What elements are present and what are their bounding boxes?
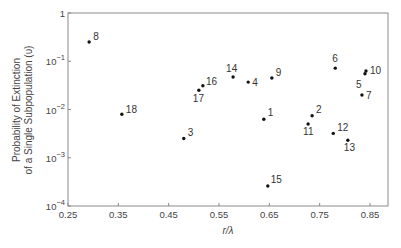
point-label: 16 (206, 76, 218, 87)
data-point: 15 (266, 174, 282, 188)
point-marker (266, 184, 269, 187)
data-point: 13 (344, 139, 356, 154)
x-tick-label: 0.25 (59, 209, 78, 220)
y-tick-label: 10−2 (46, 102, 65, 116)
point-label: 11 (303, 126, 314, 137)
data-point: 14 (226, 63, 238, 79)
point-marker (332, 132, 335, 135)
point-label: 14 (226, 63, 238, 74)
point-marker (310, 114, 313, 117)
x-tick-label: 0.85 (361, 209, 380, 220)
point-marker (360, 93, 363, 96)
point-label: 6 (332, 53, 338, 64)
y-tick-label: 10−1 (46, 53, 65, 67)
data-point: 4 (246, 77, 258, 88)
data-point: 2 (310, 104, 322, 118)
y-axis-title-line1: Probability of Extinction (11, 58, 22, 162)
data-point: 17 (193, 89, 205, 105)
point-label: 4 (252, 77, 258, 88)
point-label: 13 (344, 142, 356, 153)
y-axis-title: Probability of Extinction of a Single Su… (11, 46, 34, 175)
x-tick-label: 0.65 (260, 209, 279, 220)
point-marker (334, 66, 337, 69)
data-point: 8 (87, 31, 99, 44)
data-point: 3 (182, 127, 194, 141)
data-point: 18 (120, 104, 137, 116)
data-point: 6 (332, 53, 338, 70)
data-point: 7 (360, 90, 372, 101)
x-tick-label: 0.55 (210, 209, 229, 220)
scatter-chart: 0.250.350.450.550.650.750.85 110−110−210… (0, 0, 401, 248)
data-point: 11 (303, 122, 314, 137)
data-point: 12 (332, 122, 349, 135)
x-tick-label: 0.35 (109, 209, 128, 220)
point-label: 15 (271, 174, 283, 185)
point-marker (120, 112, 123, 115)
y-axis-title-line2: of a Single Subpopulation (υ) (23, 46, 34, 175)
point-marker (246, 80, 249, 83)
y-axis-ticks: 110−110−210−310−4 (46, 8, 71, 212)
x-axis-title: r/λ (222, 225, 233, 236)
plot-frame (68, 13, 388, 206)
x-tick-label: 0.45 (159, 209, 178, 220)
point-label: 1 (268, 107, 274, 118)
point-label: 10 (370, 65, 382, 76)
point-marker (182, 137, 185, 140)
point-label: 8 (93, 31, 99, 42)
data-points: 123456789101112131415161718 (87, 31, 381, 188)
point-label: 2 (316, 104, 322, 115)
point-marker (270, 76, 273, 79)
data-point: 9 (270, 67, 282, 80)
point-marker (87, 40, 90, 43)
point-label: 7 (366, 90, 372, 101)
data-point: 5 (356, 72, 367, 90)
y-tick-label: 1 (60, 8, 65, 19)
data-point: 16 (201, 76, 217, 88)
point-label: 18 (126, 104, 138, 115)
y-tick-label: 10−3 (46, 150, 65, 164)
x-tick-label: 0.75 (310, 209, 329, 220)
point-label: 3 (188, 127, 194, 138)
point-label: 12 (337, 122, 349, 133)
point-marker (197, 89, 200, 92)
point-label: 5 (356, 79, 362, 90)
point-marker (201, 84, 204, 87)
point-marker (231, 75, 234, 78)
point-marker (364, 69, 367, 72)
data-point: 1 (262, 107, 274, 121)
point-label: 9 (276, 67, 282, 78)
point-label: 17 (193, 93, 205, 104)
data-point: 10 (364, 65, 381, 76)
point-marker (262, 117, 265, 120)
